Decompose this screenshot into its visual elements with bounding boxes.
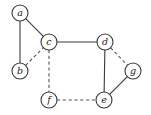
edge-e-g	[110, 77, 128, 95]
edges-group	[20, 19, 127, 100]
node-c: c	[41, 34, 57, 50]
node-f: f	[41, 92, 57, 108]
node-label: c	[46, 36, 52, 47]
node-b: b	[12, 63, 28, 79]
edge-d-g	[111, 48, 128, 65]
node-e: e	[96, 92, 112, 108]
node-d: d	[97, 34, 113, 50]
node-a: a	[12, 5, 28, 21]
edge-a-c	[26, 19, 44, 37]
node-label: b	[17, 65, 23, 76]
node-label: a	[17, 7, 23, 18]
nodes-group: abcdgfe	[12, 5, 141, 108]
edge-b-c	[26, 48, 44, 66]
edge-d-e	[104, 50, 105, 92]
node-label: d	[102, 36, 108, 47]
graph-diagram: abcdgfe	[0, 0, 151, 115]
node-g: g	[125, 63, 141, 79]
node-label: g	[130, 65, 136, 76]
node-label: e	[101, 94, 107, 105]
